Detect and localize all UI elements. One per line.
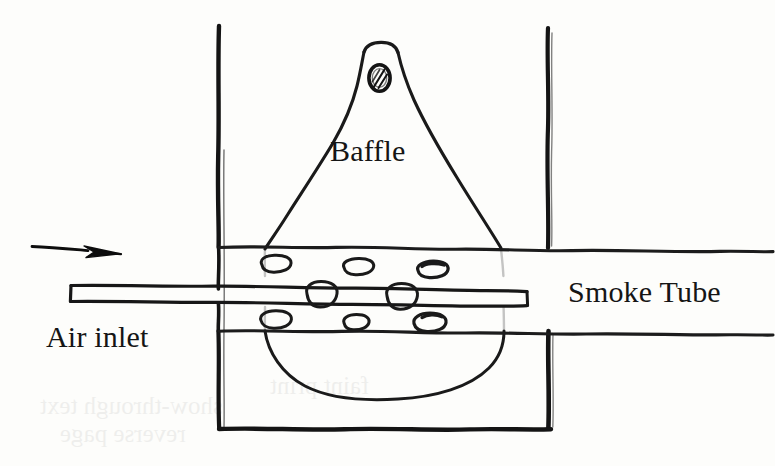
air-flow-arrow-shaft <box>32 247 88 251</box>
inner-rod <box>70 285 527 306</box>
perforation-top-row <box>261 255 448 278</box>
chamber-right-wall-lower <box>548 331 549 428</box>
air-flow-arrow-tip-tail <box>100 253 121 254</box>
baffle-apex-cap <box>364 42 398 52</box>
air-flow-arrow <box>32 246 121 258</box>
perforation-hole <box>344 258 374 274</box>
diagram-canvas: show-through text reverse page faint pri… <box>0 0 775 466</box>
perforation-bottom-row <box>261 311 446 332</box>
inner-rod-left-cap <box>70 286 71 302</box>
baffle-edge-right-stub-upper <box>501 249 503 276</box>
perforation-hole-inkmark <box>422 315 442 318</box>
perforation-hole-inkmark <box>422 263 444 266</box>
chamber-left-wall-upper <box>218 26 219 247</box>
inner-rod-top-edge <box>71 285 527 291</box>
smoke-tube-band-bottom-line <box>219 331 773 335</box>
chamber-bottom-wall <box>219 429 551 430</box>
label-baffle: Baffle <box>330 134 406 168</box>
perforation-hole <box>344 315 369 330</box>
chamber-left-wall-lower <box>218 331 219 429</box>
inner-rod-bottom-edge <box>71 301 527 306</box>
inner-rod-right-cap <box>527 292 528 306</box>
label-smoke-tube: Smoke Tube <box>568 275 721 309</box>
chamber-left-wall-shadow <box>224 150 225 428</box>
label-air-inlet: Air inlet <box>46 320 149 354</box>
sketch-drawing <box>0 0 775 466</box>
chamber-right-wall-upper-shadow <box>551 33 552 246</box>
chamber-left-wall-mid-a <box>218 247 219 289</box>
baffle-vent-hole <box>369 65 390 91</box>
baffle-bowl-bottom <box>265 331 504 400</box>
smoke-tube-band-top-line <box>219 247 773 252</box>
chamber-right-wall-upper <box>547 28 548 248</box>
air-flow-arrow-head <box>84 246 120 258</box>
baffle-outline-right <box>398 53 501 249</box>
